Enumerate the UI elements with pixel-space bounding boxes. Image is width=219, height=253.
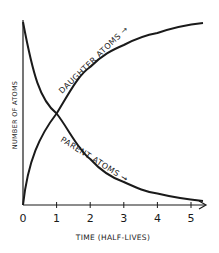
tick-label-0: 0 (20, 212, 27, 225)
tick-label-5: 5 (188, 212, 195, 225)
daughter-atoms-label: DAUGHTER ATOMS → (57, 24, 130, 95)
tick-label-1: 1 (53, 212, 60, 225)
parent-atoms-label: PARENT ATOMS → (59, 135, 130, 184)
decay-chart: 0 1 2 3 4 5 TIME (HALF-LIVES) NUMBER OF … (0, 0, 219, 253)
y-axis-label: NUMBER OF ATOMS (11, 81, 19, 150)
x-axis-label: TIME (HALF-LIVES) (75, 233, 150, 242)
tick-label-4: 4 (154, 212, 161, 225)
tick-label-3: 3 (120, 212, 127, 225)
tick-label-2: 2 (87, 212, 94, 225)
